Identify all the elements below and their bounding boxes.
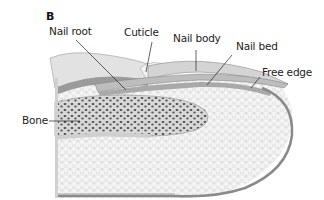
panel-label: B: [46, 11, 54, 22]
label-free-edge: Free edge: [262, 67, 312, 78]
label-cuticle: Cuticle: [124, 27, 159, 38]
nail-anatomy-diagram: B Nail root Cuticle Nail body Nail bed F…: [0, 0, 324, 200]
label-nail-root: Nail root: [49, 26, 92, 37]
bone-shape: [55, 95, 208, 137]
label-nail-body: Nail body: [173, 33, 221, 44]
label-bone: Bone: [22, 115, 48, 126]
label-nail-bed: Nail bed: [236, 41, 278, 52]
